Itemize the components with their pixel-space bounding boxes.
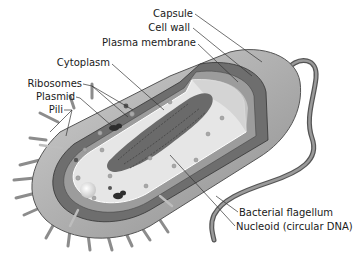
label-capsule: Capsule [153, 8, 193, 19]
label-pili: Pili [49, 104, 63, 115]
diagram-svg: Capsule Cell wall Plasma membrane Cytopl… [0, 0, 356, 265]
label-ribosomes: Ribosomes [27, 78, 82, 89]
label-plasma-membrane: Plasma membrane [102, 37, 196, 48]
label-cytoplasm: Cytoplasm [57, 57, 110, 68]
bacterial-cell-diagram: Capsule Cell wall Plasma membrane Cytopl… [0, 0, 356, 265]
label-plasmid: Plasmid [36, 91, 75, 102]
storage-granule [80, 182, 96, 198]
label-flagellum: Bacterial flagellum [239, 207, 333, 218]
label-nucleoid: Nucleoid (circular DNA) [236, 221, 353, 232]
label-cell-wall: Cell wall [148, 22, 190, 33]
